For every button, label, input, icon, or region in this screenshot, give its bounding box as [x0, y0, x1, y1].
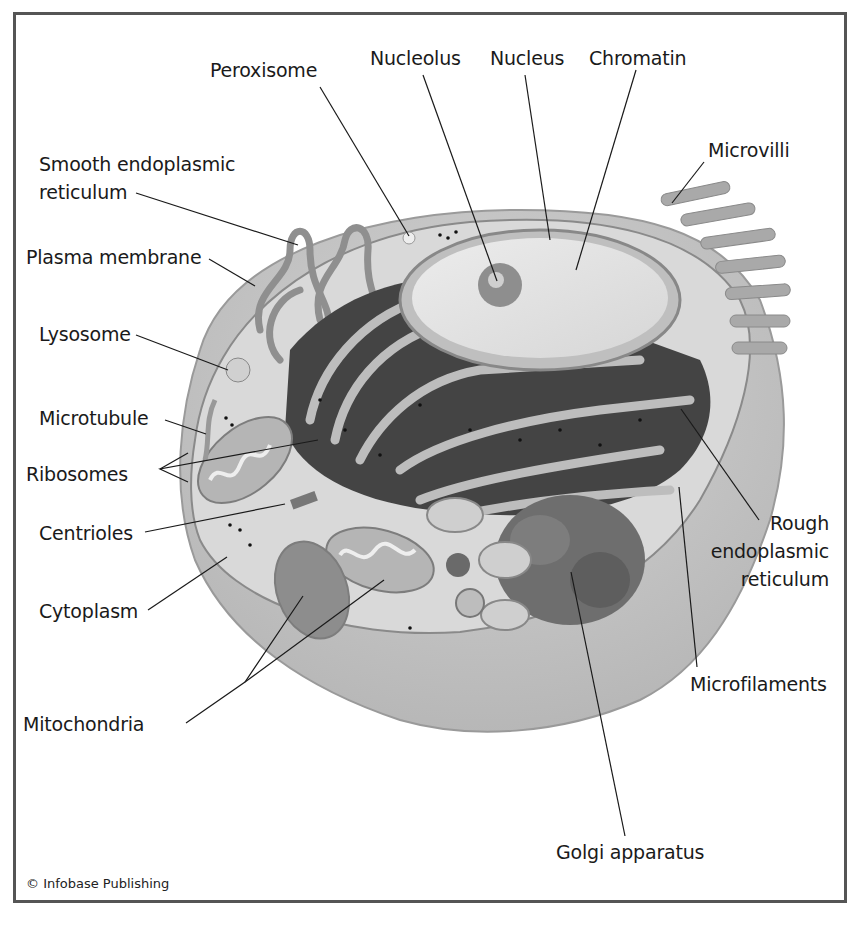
label-rough-er-line1: Rough [770, 512, 829, 535]
label-peroxisome: Peroxisome [210, 59, 317, 82]
label-golgi-apparatus: Golgi apparatus [556, 841, 704, 864]
label-mitochondria: Mitochondria [23, 713, 144, 736]
label-nucleus: Nucleus [490, 47, 564, 70]
label-microtubule: Microtubule [39, 407, 149, 430]
label-ribosomes: Ribosomes [26, 463, 128, 486]
label-smooth-er-line2: reticulum [39, 181, 127, 204]
label-rough-er-line3: reticulum [741, 568, 829, 591]
lysosome-shape [226, 358, 250, 382]
label-plasma-membrane: Plasma membrane [26, 246, 201, 269]
golgi-shape [427, 495, 645, 630]
label-smooth-er-line1: Smooth endoplasmic [39, 153, 235, 176]
label-nucleolus: Nucleolus [370, 47, 461, 70]
nucleus-shape [400, 230, 680, 370]
label-microvilli: Microvilli [708, 139, 790, 162]
copyright-credit: © Infobase Publishing [26, 876, 169, 891]
label-centrioles: Centrioles [39, 522, 133, 545]
label-rough-er-line2: endoplasmic [711, 540, 829, 563]
label-chromatin: Chromatin [589, 47, 686, 70]
label-microfilaments: Microfilaments [690, 673, 827, 696]
peroxisome-shape [403, 232, 415, 244]
label-cytoplasm: Cytoplasm [39, 600, 138, 623]
label-lysosome: Lysosome [39, 323, 131, 346]
